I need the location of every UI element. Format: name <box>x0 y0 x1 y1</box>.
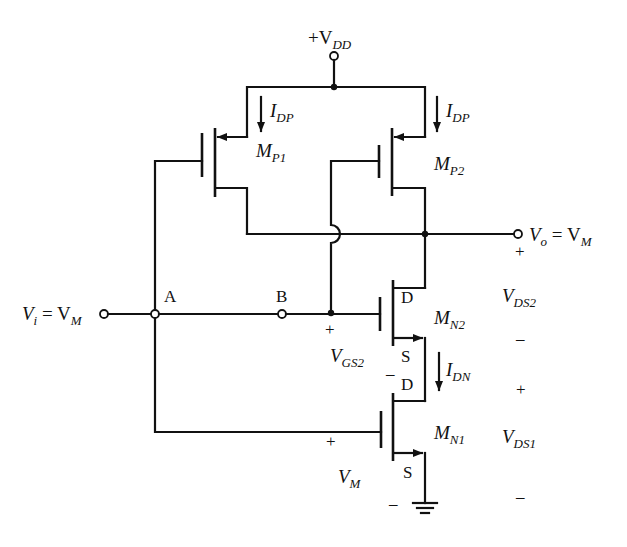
mn2-source-label: S <box>401 347 410 366</box>
transistor-mn1: D S MN1 <box>381 375 465 503</box>
svg-text:VGS2: VGS2 <box>330 345 364 370</box>
input-node: Vi = VM A B <box>22 287 381 432</box>
node-a-label: A <box>164 287 177 306</box>
vgs2-annotation: + VGS2 – <box>325 320 395 383</box>
svg-text:+: + <box>325 320 335 339</box>
svg-text:VDS2: VDS2 <box>502 285 536 310</box>
mn2-subscript: N2 <box>449 317 466 332</box>
mp2-label: M <box>433 153 451 174</box>
svg-text:+: + <box>326 432 336 451</box>
mn2-label: M <box>433 307 451 328</box>
mp1-subscript: P1 <box>271 150 286 165</box>
mn2-drain-label: D <box>401 288 413 307</box>
output-terminal[interactable] <box>514 230 522 238</box>
svg-text:Vi = VM: Vi = VM <box>22 303 83 328</box>
svg-text:IDN: IDN <box>445 359 472 384</box>
transistor-mp1: MP1 <box>155 128 286 313</box>
svg-text:+: + <box>516 380 526 399</box>
output-node: Vo = VM <box>247 224 593 249</box>
mp2-subscript: P2 <box>449 163 465 178</box>
current-idn: IDN <box>439 353 472 390</box>
svg-text:VM: VM <box>338 466 362 491</box>
current-idp-right: IDP <box>437 97 470 131</box>
svg-text:–: – <box>515 487 525 506</box>
vds2-annotation: + VDS2 – <box>502 242 536 348</box>
svg-text:IDP: IDP <box>269 100 294 125</box>
node-b-circle <box>278 310 286 318</box>
mn1-subscript: N1 <box>449 432 465 447</box>
mn2-gate-node-dot <box>328 310 334 316</box>
svg-text:–: – <box>515 329 525 348</box>
cmos-circuit-schematic: +VDD MP1 IDP MP2 IDP Vo = VM <box>0 0 627 547</box>
transistor-mp2: MP2 <box>331 128 465 313</box>
svg-text:Vo = VM: Vo = VM <box>529 224 593 249</box>
svg-text:+: + <box>515 242 525 261</box>
vds1-annotation: + VDS1 – <box>502 380 536 506</box>
mn1-drain-label: D <box>401 375 413 394</box>
svg-text:VDS1: VDS1 <box>502 426 536 451</box>
mp1-drain-wire <box>216 188 247 234</box>
input-terminal[interactable] <box>100 310 108 318</box>
mn1-gate-wire <box>155 318 381 432</box>
mn1-source-label: S <box>403 463 412 482</box>
svg-text:IDP: IDP <box>445 100 470 125</box>
vdd-terminal[interactable] <box>330 52 338 60</box>
mp2-drain-wire <box>393 188 425 288</box>
svg-text:MN2: MN2 <box>433 307 465 332</box>
mp2-gate-wire-with-hop <box>331 161 379 313</box>
node-b-label: B <box>276 287 287 306</box>
svg-text:MN1: MN1 <box>433 422 465 447</box>
node-a-circle <box>151 310 159 318</box>
svg-text:+VDD: +VDD <box>308 27 352 52</box>
mp1-label: M <box>255 140 273 161</box>
mp1-gate-wire <box>155 161 202 313</box>
vdd-subscript: DD <box>331 37 351 52</box>
vdd-label: +V <box>308 27 333 48</box>
svg-text:MP2: MP2 <box>433 153 465 178</box>
svg-text:–: – <box>385 364 395 383</box>
svg-text:MP1: MP1 <box>255 140 286 165</box>
svg-text:–: – <box>388 494 398 513</box>
output-node-dot <box>422 231 428 237</box>
vm-annotation: + VM – <box>326 432 398 513</box>
mn1-label: M <box>433 422 451 443</box>
current-idp-left: IDP <box>261 97 294 131</box>
ground-icon <box>413 503 437 513</box>
